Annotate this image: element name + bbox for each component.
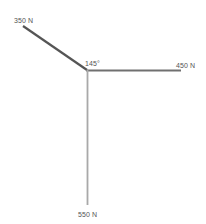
force-diagram: [0, 0, 206, 224]
vector-350n-line: [23, 26, 87, 70]
label-450n: 450 N: [176, 62, 195, 69]
label-350n: 350 N: [14, 17, 33, 24]
label-angle-145: 145°: [85, 60, 100, 67]
label-550n: 550 N: [78, 211, 97, 218]
